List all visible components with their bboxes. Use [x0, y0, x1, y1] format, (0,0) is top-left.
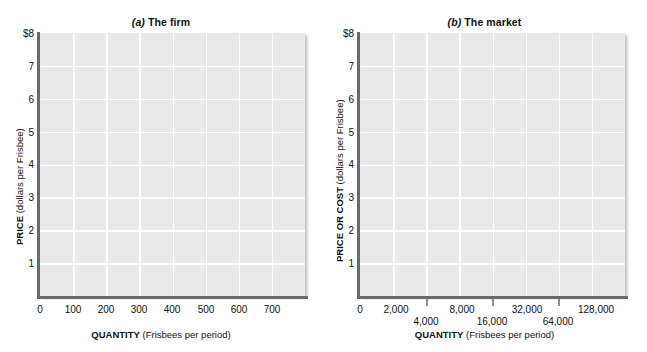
x-tick-mark	[492, 299, 494, 306]
gridline-vertical	[526, 33, 528, 296]
x-axis-caption-b: QUANTITY (Frisbees per period)	[322, 329, 647, 340]
gridline-vertical	[493, 33, 495, 296]
y-axis-line-b	[357, 32, 360, 299]
plot-area-b	[360, 33, 625, 296]
gridline-vertical	[393, 33, 395, 296]
x-tick-label: 4,000	[396, 317, 456, 327]
x-tick-label: 8,000	[432, 305, 492, 315]
y-axis-caption-b-bold: PRICE OR COST	[334, 187, 345, 262]
gridline-vertical	[106, 33, 108, 296]
panel-b-title-prefix: (b)	[448, 16, 462, 28]
x-axis-caption-a-bold: QUANTITY	[91, 329, 140, 340]
y-axis-caption-b: PRICE OR COST (dollars per Frisbee)	[334, 99, 345, 262]
y-tick-label: 1	[0, 259, 34, 269]
gridline-vertical	[239, 33, 241, 296]
x-tick-mark	[426, 299, 428, 306]
x-axis-line-a	[37, 296, 308, 299]
x-tick-label: 128,000	[566, 305, 626, 315]
gridline-vertical	[272, 33, 274, 296]
x-axis-caption-a: QUANTITY (Frisbees per period)	[0, 329, 322, 340]
panel-b-title: (b) The market	[322, 16, 647, 28]
x-axis-caption-b-bold: QUANTITY	[415, 329, 464, 340]
y-axis-line-a	[37, 32, 40, 299]
y-tick-label: $8	[0, 29, 34, 39]
x-axis-caption-b-rest: (Frisbees per period)	[466, 329, 554, 340]
x-tick-label: 64,000	[528, 317, 588, 327]
y-axis-caption-b-rest: (dollars per Frisbee)	[334, 99, 345, 184]
x-axis-caption-a-rest: (Frisbees per period)	[143, 329, 231, 340]
gridline-vertical	[73, 33, 75, 296]
gridline-vertical	[139, 33, 141, 296]
y-tick-label: 7	[320, 62, 354, 72]
gridline-vertical	[426, 33, 428, 296]
y-axis-caption-a: PRICE (dollars per Frisbee)	[14, 128, 25, 245]
x-tick-label: 16,000	[462, 317, 522, 327]
x-tick-label: 700	[242, 305, 302, 315]
y-tick-label: $8	[320, 29, 354, 39]
x-tick-label: 32,000	[497, 305, 557, 315]
y-axis-caption-a-rest: (dollars per Frisbee)	[14, 128, 25, 213]
plot-area-a	[40, 33, 305, 296]
chart-panel-a: (a) The firm $8 7 6 5 4 3 2 1 0 100 200 …	[0, 0, 322, 352]
y-tick-label: 6	[0, 95, 34, 105]
x-tick-mark	[558, 299, 560, 306]
panel-b-title-text: The market	[464, 16, 521, 28]
gridline-vertical	[592, 33, 594, 296]
x-tick-label: 2,000	[366, 305, 426, 315]
gridlines-a	[40, 33, 305, 296]
panel-a-title-prefix: (a)	[132, 16, 145, 28]
gridline-vertical	[206, 33, 208, 296]
y-tick-label: 7	[0, 62, 34, 72]
gridline-vertical	[559, 33, 561, 296]
gridline-vertical	[459, 33, 461, 296]
panel-a-title-text: The firm	[148, 16, 190, 28]
panel-a-title: (a) The firm	[0, 16, 322, 28]
gridlines-b	[360, 33, 625, 296]
gridline-vertical	[173, 33, 175, 296]
y-axis-caption-a-bold: PRICE	[14, 216, 25, 245]
